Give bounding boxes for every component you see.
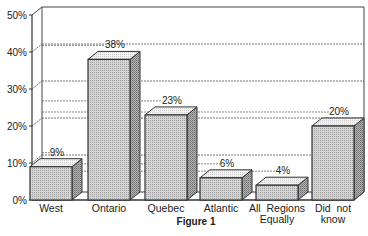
y-tick-label: 20% [7, 121, 27, 132]
value-label: 20% [329, 106, 349, 117]
category-label: Atlantic [204, 202, 238, 214]
value-label: 6% [220, 158, 235, 169]
bar [312, 118, 364, 200]
bar [30, 159, 82, 200]
y-tick-label: 40% [7, 47, 27, 58]
value-label: 4% [276, 165, 291, 176]
bar [145, 107, 197, 200]
category-label: Quebec [148, 202, 185, 214]
value-label: 23% [162, 95, 182, 106]
category-label: Equally [260, 213, 295, 225]
value-label: 38% [105, 39, 125, 50]
category-label: West [39, 202, 63, 214]
figure-caption: Figure 1 [177, 216, 216, 227]
bar [256, 177, 308, 200]
bar [88, 51, 140, 200]
y-tick-label: 50% [7, 10, 27, 21]
value-label: 9% [50, 147, 65, 158]
y-tick-label: 30% [7, 84, 27, 95]
bar [200, 170, 252, 200]
category-label: Ontario [92, 202, 127, 214]
y-tick-label: 10% [7, 158, 27, 169]
bars [30, 51, 364, 200]
bar-chart: 0%10%20%30%40%50%9%West38%Ontario23%Queb… [0, 0, 368, 236]
category-label: know [321, 213, 346, 225]
y-tick-label: 0% [13, 195, 28, 206]
